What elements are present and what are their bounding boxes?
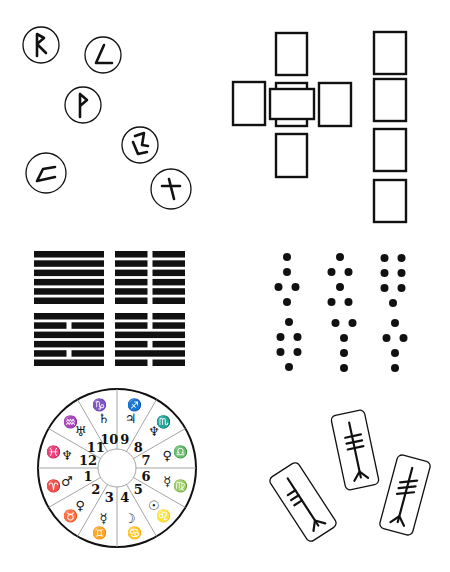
geomancy-dot bbox=[340, 349, 348, 357]
planet-glyph-icon: ☿ bbox=[100, 511, 108, 526]
hexagram-broken-line bbox=[115, 313, 148, 320]
tarot-card-bottom bbox=[276, 134, 307, 177]
zodiac-sign-icon: ♑ bbox=[92, 398, 107, 412]
planet-glyph-icon: ♄ bbox=[98, 411, 110, 426]
geomancy-dot bbox=[336, 253, 344, 261]
geomancy-dot bbox=[294, 333, 302, 341]
hexagram-solid-line bbox=[34, 251, 104, 258]
hexagram-solid-line bbox=[34, 260, 104, 267]
geomancy-dot bbox=[328, 268, 336, 276]
house-number: 5 bbox=[134, 482, 143, 497]
hexagram-solid-line bbox=[34, 288, 104, 295]
geomancy-dot bbox=[349, 319, 357, 327]
geomancy-dot bbox=[336, 283, 344, 291]
tarot-spread-panel bbox=[233, 32, 406, 222]
geomancy-dot bbox=[277, 333, 285, 341]
geomancy-dot bbox=[398, 254, 406, 262]
tarot-card-staff-1 bbox=[374, 32, 406, 74]
tarot-card-staff-2 bbox=[374, 79, 406, 121]
hexagram-broken-line bbox=[115, 270, 148, 277]
zodiac-sign-icon: ♓ bbox=[46, 445, 61, 459]
zodiac-sign-icon: ♍ bbox=[173, 479, 188, 493]
geomancy-dot bbox=[398, 284, 406, 292]
rune-stone-dagaz-variant: ᛞ bbox=[122, 127, 158, 163]
tarot-card-left bbox=[233, 82, 265, 125]
zodiac-sign-icon: ♌ bbox=[156, 509, 171, 523]
geomancy-dot bbox=[381, 284, 389, 292]
geomantic-figure-1 bbox=[275, 253, 300, 306]
zodiac-sign-icon: ♒ bbox=[63, 415, 78, 429]
divination-illustration: ᚱᚳᚹᛞᚲᚷ 1♂♈2♀♉3☿♊4☽♋5☉♌6☿♍7♀♎8♆♏9♃♐10♄♑11… bbox=[0, 0, 450, 572]
geomancy-dot bbox=[340, 364, 348, 372]
geomancy-dot bbox=[277, 348, 285, 356]
geomancy-dot bbox=[391, 364, 399, 372]
rune-stone-raidho: ᚱ bbox=[23, 27, 59, 63]
hexagram-solid-line bbox=[115, 350, 185, 357]
geomantic-figure-2 bbox=[328, 253, 353, 306]
hexagram-solid-line bbox=[34, 270, 104, 277]
geomancy-dot bbox=[400, 334, 408, 342]
geomancy-dot bbox=[283, 253, 291, 261]
geomancy-dot bbox=[345, 298, 353, 306]
geomancy-dot bbox=[383, 334, 391, 342]
geomancy-dot bbox=[389, 299, 397, 307]
hexagram-qian bbox=[34, 251, 104, 304]
ogham-stave-left bbox=[268, 461, 338, 543]
ogham-stave-right bbox=[379, 454, 432, 536]
illustration-canvas: ᚱᚳᚹᛞᚲᚷ 1♂♈2♀♉3☿♊4☽♋5☉♌6☿♍7♀♎8♆♏9♃♐10♄♑11… bbox=[0, 0, 450, 572]
hexagram-broken-line bbox=[115, 251, 148, 258]
ogham-stave-middle bbox=[330, 409, 379, 490]
house-number: 8 bbox=[134, 440, 143, 455]
geomancy-dot bbox=[292, 283, 300, 291]
hexagram-solid-line bbox=[34, 298, 104, 305]
house-number: 6 bbox=[141, 469, 150, 484]
zodiac-sign-icon: ♋ bbox=[127, 526, 142, 540]
hexagram-broken-line bbox=[115, 260, 148, 267]
planet-glyph-icon: ♃ bbox=[125, 411, 137, 426]
planet-glyph-icon: ♆ bbox=[61, 448, 73, 463]
hexagram-hexagram-broken-mix bbox=[115, 313, 185, 366]
geomancy-dot bbox=[283, 268, 291, 276]
house-number: 9 bbox=[120, 432, 129, 447]
geomancy-panel bbox=[275, 253, 408, 372]
tarot-card-top bbox=[276, 33, 307, 75]
hexagram-broken-line bbox=[115, 298, 148, 305]
hexagram-broken-line bbox=[115, 288, 148, 295]
house-number: 2 bbox=[91, 482, 100, 497]
geomantic-figure-3 bbox=[381, 254, 406, 307]
astrology-wheel-panel: 1♂♈2♀♉3☿♊4☽♋5☉♌6☿♍7♀♎8♆♏9♃♐10♄♑11♅♒12♆♓ bbox=[38, 389, 196, 547]
zodiac-sign-icon: ♎ bbox=[173, 445, 188, 459]
house-number: 12 bbox=[79, 453, 97, 468]
hexagram-kun bbox=[115, 251, 185, 304]
zodiac-sign-icon: ♏ bbox=[156, 415, 171, 429]
hexagram-solid-line bbox=[34, 313, 104, 320]
hexagram-broken-line bbox=[115, 322, 148, 329]
geomancy-dot bbox=[275, 283, 283, 291]
zodiac-sign-icon: ♐ bbox=[127, 398, 142, 412]
hexagram-solid-line bbox=[115, 332, 185, 339]
house-number: 3 bbox=[105, 490, 114, 505]
planet-glyph-icon: ☿ bbox=[163, 474, 171, 489]
hexagram-broken-line bbox=[115, 341, 148, 348]
hexagram-solid-line bbox=[34, 360, 104, 367]
rune-stones-panel: ᚱᚳᚹᛞᚲᚷ bbox=[23, 27, 191, 209]
planet-glyph-icon: ♂ bbox=[61, 474, 73, 489]
hexagram-li bbox=[34, 313, 104, 366]
geomancy-dot bbox=[285, 318, 293, 326]
geomancy-dot bbox=[381, 254, 389, 262]
house-number: 7 bbox=[141, 453, 150, 468]
geomancy-dot bbox=[391, 349, 399, 357]
planet-glyph-icon: ☽ bbox=[124, 511, 136, 526]
hexagram-broken-line bbox=[34, 322, 67, 329]
geomancy-dot bbox=[332, 319, 340, 327]
hexagram-broken-line bbox=[115, 360, 148, 367]
i-ching-panel bbox=[34, 251, 185, 366]
house-number: 4 bbox=[120, 490, 129, 505]
tarot-card-right bbox=[319, 83, 351, 126]
hexagram-solid-line bbox=[34, 341, 104, 348]
rune-stone-gebo: ᚷ bbox=[151, 169, 191, 209]
hexagram-broken-line bbox=[34, 350, 67, 357]
geomantic-figure-6 bbox=[383, 319, 408, 372]
geomancy-dot bbox=[283, 298, 291, 306]
rune-stone-laguz-variant: ᚳ bbox=[85, 37, 121, 73]
